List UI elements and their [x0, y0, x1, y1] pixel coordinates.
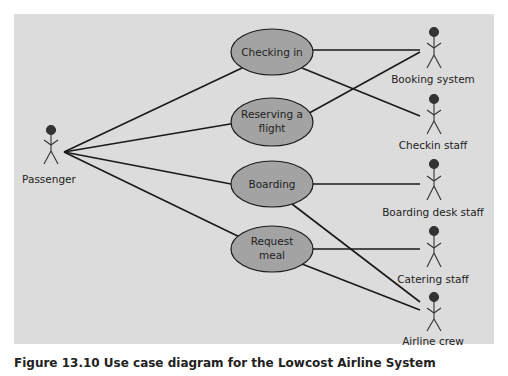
use-case-checking-in: Checking in	[231, 29, 313, 75]
actor-booking-system	[427, 28, 441, 69]
stick-figure-icon	[427, 227, 441, 268]
use-case-label: meal	[259, 249, 285, 261]
use-case-request-meal: Request meal	[231, 226, 313, 272]
stick-figure-icon	[427, 28, 441, 69]
use-case-reserving-flight: Reserving a flight	[231, 98, 313, 146]
actor-passenger	[44, 126, 58, 165]
use-case-label: Reserving a	[241, 108, 303, 120]
use-case-label: Boarding	[248, 178, 295, 190]
actor-label-boarding-desk-staff: Boarding desk staff	[382, 206, 484, 218]
stick-figure-icon	[427, 160, 441, 201]
figure-caption: Figure 13.10 Use case diagram for the Lo…	[14, 356, 436, 370]
actor-label-checkin-staff: Checkin staff	[399, 139, 468, 151]
use-case-diagram: Checking in Reserving a flight Boarding …	[0, 0, 508, 376]
actor-label-airline-crew: Airline crew	[402, 335, 464, 347]
use-case-label: Checking in	[241, 46, 302, 58]
actor-label-passenger: Passenger	[22, 173, 76, 185]
stick-figure-icon	[427, 293, 441, 332]
actor-catering-staff	[427, 227, 441, 268]
actor-airline-crew	[427, 293, 441, 332]
actor-boarding-desk-staff	[427, 160, 441, 201]
actor-label-catering-staff: Catering staff	[397, 273, 469, 285]
use-case-boarding: Boarding	[231, 161, 313, 207]
use-case-label: flight	[259, 122, 286, 134]
use-case-label: Request	[251, 235, 294, 247]
actor-checkin-staff	[427, 95, 441, 135]
stick-figure-icon	[44, 126, 58, 165]
actor-label-booking-system: Booking system	[391, 73, 475, 85]
stick-figure-icon	[427, 95, 441, 135]
